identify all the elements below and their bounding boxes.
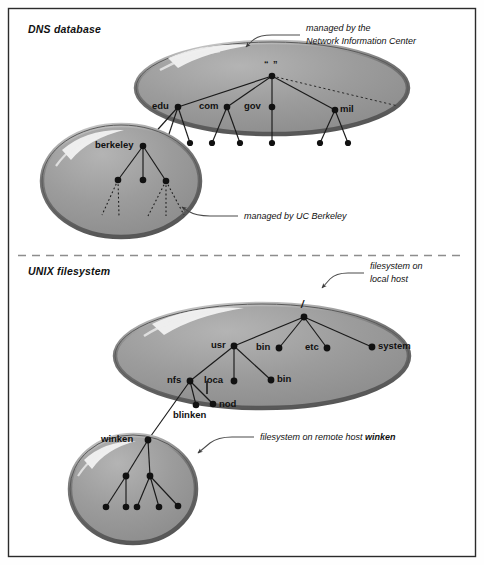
node-nfs: [187, 378, 194, 385]
label-edu: edu: [152, 100, 169, 111]
label-blinken: blinken: [173, 409, 206, 420]
node-nod: [210, 401, 217, 408]
label-slash: /: [301, 299, 304, 310]
node-berkeley: [140, 143, 147, 150]
node-berkeley-child: [140, 177, 147, 184]
node-dns-root: [269, 73, 276, 80]
node-winken-child: [147, 473, 154, 480]
node-gov: [269, 104, 276, 111]
section-title-dns: DNS database: [28, 23, 101, 35]
node-winken-leaf: [103, 504, 110, 511]
label-berkeley: berkeley: [95, 139, 134, 150]
node-winken-child: [123, 473, 130, 480]
label-bin-usr: bin: [277, 373, 291, 384]
label-gov: gov: [244, 100, 261, 111]
annotation-localhost-line2: local host: [370, 273, 423, 286]
label-usr: usr: [211, 339, 226, 350]
label-com: com: [199, 100, 219, 111]
node-winken-leaf: [156, 504, 163, 511]
annotation-nic-line2: Network Information Center: [306, 35, 416, 48]
winken-blob: [70, 435, 196, 543]
node-blinken: [193, 402, 200, 409]
node-dns-leaf: [187, 140, 193, 146]
node-dns-leaf: [269, 140, 275, 146]
annotation-remotehost-host: winken: [365, 432, 396, 442]
node-dns-leaf: [209, 140, 215, 146]
label-system: system: [378, 340, 411, 351]
node-system: [369, 344, 376, 351]
label-loca: loca: [204, 374, 223, 385]
node-edu: [175, 104, 182, 111]
label-nfs: nfs: [167, 374, 181, 385]
label-winken: winken: [101, 433, 133, 444]
node-loca: [231, 378, 238, 385]
node-com: [224, 104, 231, 111]
node-bin-usr: [268, 377, 275, 384]
node-winken-leaf: [134, 504, 141, 511]
node-usr: [231, 343, 238, 350]
section-title-unix: UNIX filesystem: [28, 265, 110, 277]
label-dns-root: “ ”: [264, 59, 279, 69]
annotation-nic: managed by the Network Information Cente…: [306, 22, 416, 47]
node-slash: [301, 314, 308, 321]
label-mil: mil: [340, 103, 354, 114]
node-etc: [324, 345, 331, 352]
annotation-remotehost-line1: filesystem on remote host: [260, 432, 365, 442]
figure-root: DNS database UNIX filesystem managed by …: [0, 0, 484, 565]
label-nod: nod: [219, 398, 236, 409]
node-winken-leaf: [123, 504, 130, 511]
node-berkeley-child: [163, 178, 170, 185]
label-etc: etc: [305, 341, 319, 352]
node-dns-leaf: [345, 140, 351, 146]
annotation-ucb-line1: managed by UC Berkeley: [244, 210, 347, 223]
label-bin-top: bin: [256, 341, 270, 352]
annotation-remotehost: filesystem on remote host winken: [260, 431, 396, 444]
annotation-nic-line1: managed by the: [306, 22, 416, 35]
node-dns-leaf: [237, 140, 243, 146]
node-winken: [145, 437, 152, 444]
annotation-localhost-line1: filesystem on: [370, 260, 423, 273]
node-bin-top: [276, 345, 283, 352]
unix-root-blob: [115, 304, 409, 408]
node-berkeley-child: [115, 177, 122, 184]
node-winken-leaf: [175, 503, 182, 510]
node-mil: [332, 107, 339, 114]
annotation-ucb: managed by UC Berkeley: [244, 210, 347, 223]
node-dns-leaf: [317, 140, 323, 146]
annotation-localhost: filesystem on local host: [370, 260, 423, 285]
